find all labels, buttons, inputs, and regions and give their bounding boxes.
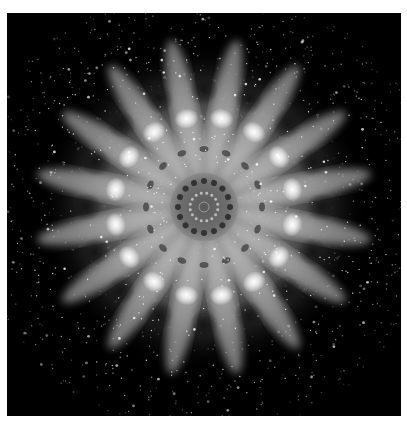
- fractal-mandala: [7, 13, 401, 416]
- fractal-image: [7, 13, 401, 416]
